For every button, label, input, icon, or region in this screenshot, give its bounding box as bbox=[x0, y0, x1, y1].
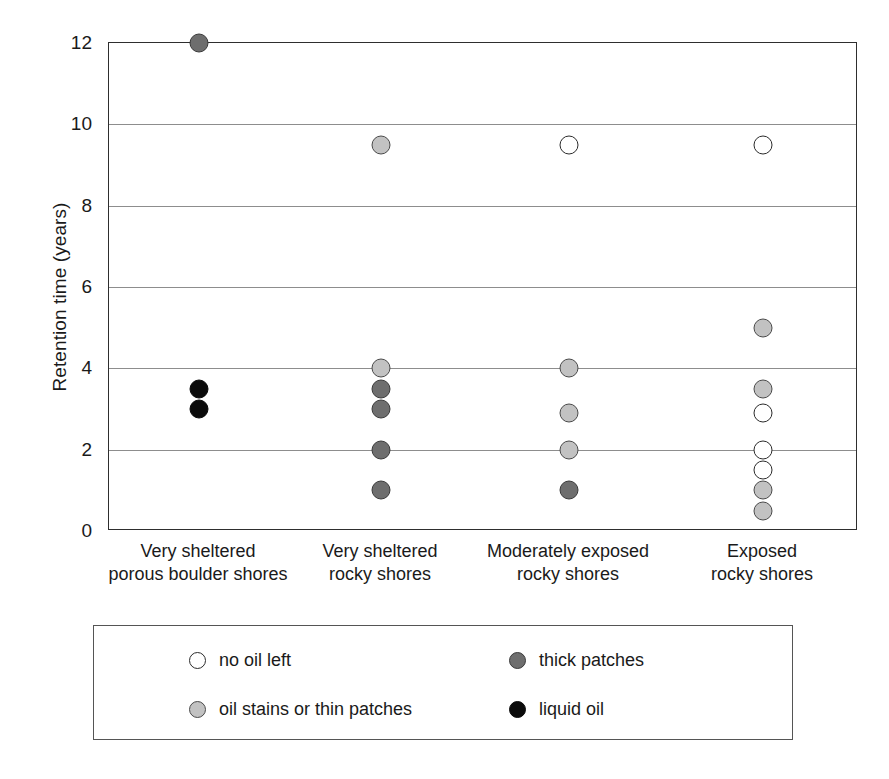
data-point bbox=[372, 379, 391, 398]
legend-label: oil stains or thin patches bbox=[219, 699, 412, 720]
legend-item-stains[interactable]: oil stains or thin patches bbox=[189, 699, 412, 720]
gridline-8 bbox=[109, 206, 856, 207]
legend-marker-liquid-icon bbox=[509, 701, 526, 718]
category-label-line2: rocky shores bbox=[647, 563, 877, 586]
legend-label: liquid oil bbox=[539, 699, 604, 720]
data-point bbox=[190, 400, 209, 419]
gridline-2 bbox=[109, 450, 856, 451]
data-point bbox=[372, 440, 391, 459]
y-tick-label-8: 8 bbox=[8, 196, 92, 215]
category-label-line1: Exposed bbox=[647, 540, 877, 563]
data-point bbox=[754, 404, 773, 423]
y-tick-label-10: 10 bbox=[8, 114, 92, 133]
plot-area bbox=[108, 42, 857, 530]
data-point bbox=[754, 379, 773, 398]
legend-item-nooil[interactable]: no oil left bbox=[189, 650, 291, 671]
data-point bbox=[372, 359, 391, 378]
y-tick-label-4: 4 bbox=[8, 358, 92, 377]
legend-label: thick patches bbox=[539, 650, 644, 671]
y-tick-label-2: 2 bbox=[8, 440, 92, 459]
legend: no oil leftthick patchesoil stains or th… bbox=[93, 625, 793, 740]
legend-marker-thick-icon bbox=[509, 652, 526, 669]
data-point bbox=[754, 318, 773, 337]
x-category-label-3: Exposedrocky shores bbox=[647, 540, 877, 586]
legend-marker-nooil-icon bbox=[189, 652, 206, 669]
data-point bbox=[754, 501, 773, 520]
data-point bbox=[754, 440, 773, 459]
scatter-chart-figure: Retention time (years) 121086420 Very sh… bbox=[0, 0, 889, 779]
gridline-10 bbox=[109, 124, 856, 125]
data-point bbox=[560, 135, 579, 154]
data-point bbox=[372, 135, 391, 154]
legend-marker-stains-icon bbox=[189, 701, 206, 718]
gridline-6 bbox=[109, 287, 856, 288]
data-point bbox=[754, 135, 773, 154]
data-point bbox=[190, 34, 209, 53]
legend-item-liquid[interactable]: liquid oil bbox=[509, 699, 604, 720]
legend-item-thick[interactable]: thick patches bbox=[509, 650, 644, 671]
y-tick-label-12: 12 bbox=[8, 33, 92, 52]
data-point bbox=[190, 379, 209, 398]
data-point bbox=[560, 440, 579, 459]
data-point bbox=[560, 481, 579, 500]
data-point bbox=[754, 481, 773, 500]
y-tick-label-0: 0 bbox=[8, 521, 92, 540]
data-point bbox=[372, 400, 391, 419]
legend-label: no oil left bbox=[219, 650, 291, 671]
data-point bbox=[560, 404, 579, 423]
data-point bbox=[372, 481, 391, 500]
y-tick-label-6: 6 bbox=[8, 277, 92, 296]
data-point bbox=[560, 359, 579, 378]
data-point bbox=[754, 461, 773, 480]
gridline-4 bbox=[109, 368, 856, 369]
